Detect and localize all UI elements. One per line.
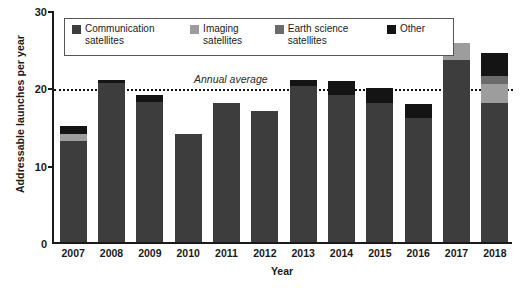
y-tick-label: 0 bbox=[41, 238, 54, 250]
bar-segment bbox=[136, 102, 163, 242]
x-tick-label: 2018 bbox=[483, 247, 506, 259]
bar-segment bbox=[366, 103, 393, 242]
bar-segment bbox=[98, 83, 125, 242]
bar-column bbox=[98, 80, 125, 242]
bar-segment bbox=[175, 134, 202, 242]
bar-column bbox=[405, 104, 432, 242]
x-tick-label: 2009 bbox=[138, 247, 161, 259]
x-tick-label: 2014 bbox=[330, 247, 353, 259]
bar-column bbox=[481, 53, 508, 242]
bar-segment bbox=[60, 134, 87, 142]
x-tick-label: 2007 bbox=[61, 247, 84, 259]
bar-segment bbox=[481, 103, 508, 242]
bar-segment bbox=[213, 103, 240, 242]
legend-item: Communication satellites bbox=[72, 23, 188, 46]
legend-swatch-icon bbox=[275, 25, 284, 34]
bar-column bbox=[443, 43, 470, 242]
bar-column bbox=[175, 134, 202, 242]
bar-column bbox=[328, 81, 355, 242]
bar-segment bbox=[290, 86, 317, 242]
x-tick-label: 2010 bbox=[176, 247, 199, 259]
bar-segment bbox=[366, 88, 393, 103]
legend-swatch-icon bbox=[387, 25, 396, 34]
x-tick-label: 2017 bbox=[445, 247, 468, 259]
legend-item-label: Other bbox=[400, 23, 425, 35]
x-tick-label: 2011 bbox=[215, 247, 238, 259]
bar-column bbox=[366, 88, 393, 242]
legend-item: Other bbox=[387, 23, 446, 35]
y-axis-title: Addressable launches per year bbox=[14, 0, 26, 229]
bar-column bbox=[290, 80, 317, 242]
bar-segment bbox=[405, 104, 432, 119]
bar-segment bbox=[405, 118, 432, 242]
bar-segment bbox=[481, 53, 508, 76]
bar-segment bbox=[136, 95, 163, 102]
x-tick-label: 2016 bbox=[406, 247, 429, 259]
x-tick-label: 2012 bbox=[253, 247, 276, 259]
x-tick-label: 2008 bbox=[100, 247, 123, 259]
x-tick-label: 2015 bbox=[368, 247, 391, 259]
bar-column bbox=[213, 103, 240, 242]
bar-segment bbox=[60, 141, 87, 242]
bar-segment bbox=[481, 84, 508, 103]
bar-column bbox=[251, 111, 278, 242]
x-axis-title: Year bbox=[52, 265, 512, 277]
legend-swatch-icon bbox=[190, 25, 199, 34]
legend-swatch-icon bbox=[72, 25, 81, 34]
legend-item: Earth science satellites bbox=[275, 23, 385, 46]
bar-column bbox=[136, 95, 163, 242]
legend-item: Imaging satellites bbox=[190, 23, 273, 46]
bar-segment bbox=[251, 111, 278, 242]
legend-item-label: Earth science satellites bbox=[288, 23, 349, 46]
bar-segment bbox=[443, 60, 470, 242]
chart-figure: Addressable launches per year 0102030 An… bbox=[0, 0, 526, 288]
bar-segment bbox=[328, 81, 355, 95]
bar-column bbox=[60, 126, 87, 242]
bar-segment bbox=[328, 95, 355, 242]
bar-segment bbox=[481, 76, 508, 85]
x-tick-label: 2013 bbox=[291, 247, 314, 259]
legend-item-label: Imaging satellites bbox=[203, 23, 242, 46]
bar-segment bbox=[60, 126, 87, 134]
chart-legend: Communication satellitesImaging satellit… bbox=[64, 18, 454, 56]
legend-item-label: Communication satellites bbox=[85, 23, 154, 46]
